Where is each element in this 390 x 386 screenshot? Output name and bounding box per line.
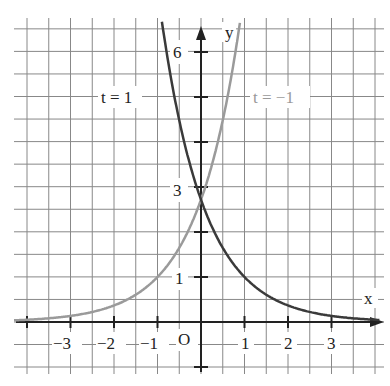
curve-label-t-minus-1: t = −1 [253,88,294,107]
curve-t-1 [162,22,380,320]
x-tick-2: 2 [284,334,293,353]
x-tick-minus-3: −3 [53,334,71,353]
y-axis-arrow-icon [196,26,206,40]
y-tick-6: 6 [173,43,182,62]
x-tick-3: 3 [327,334,336,353]
y-tick-3: 3 [173,181,182,200]
x-tick-minus-2: −2 [97,334,115,353]
x-tick-1: 1 [241,334,250,353]
exponential-graph: y x O 6 3 1 −3 −2 −1 1 2 3 t = 1 t = −1 [0,0,390,386]
curve-label-t-1: t = 1 [101,88,132,107]
y-axis-label: y [225,23,234,42]
curve-t-minus-1 [14,23,240,320]
x-axis-label: x [364,289,373,308]
x-tick-minus-1: −1 [140,334,158,353]
y-tick-1: 1 [175,269,184,288]
origin-label: O [178,330,190,349]
